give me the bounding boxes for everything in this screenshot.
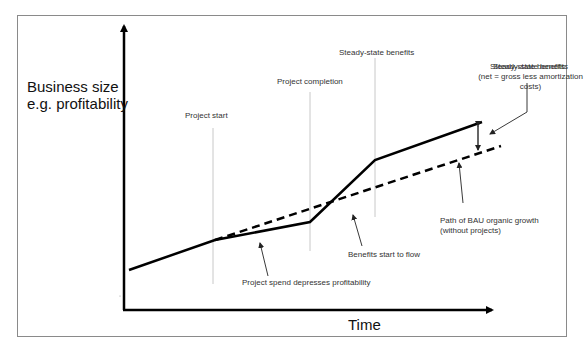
- project-spend-pointer: [260, 243, 268, 276]
- project-spend-annotation: Project spend depresses profitability: [242, 278, 371, 288]
- x-axis-label: Time: [348, 316, 381, 334]
- steady-state-label: Steady-state benefits: [339, 48, 414, 58]
- y-axis-label-line2: e.g. profitability: [27, 95, 128, 113]
- net-benefits-line1: Steady-state benefits: [443, 62, 588, 72]
- bau-annotation-line1: Path of BAU organic growth: [440, 216, 539, 226]
- net-benefits-line2: (net = gross less amortization: [443, 72, 588, 82]
- benefits-flow-pointer: [353, 215, 362, 246]
- actual-growth-line: [129, 122, 482, 270]
- project-start-label: Project start: [185, 111, 228, 121]
- bau-annotation-line2: (without projects): [440, 226, 501, 236]
- bau-pointer: [459, 163, 463, 203]
- project-completion-label: Project completion: [277, 77, 343, 87]
- y-axis-label-line1: Business size: [27, 78, 119, 96]
- net-benefits-line3: costs): [443, 82, 588, 92]
- benefits-flow-annotation: Benefits start to flow: [348, 250, 420, 260]
